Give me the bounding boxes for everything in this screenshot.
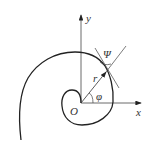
spiral-diagram: y x O r φ Ψ [0,0,155,153]
x-axis-label: x [135,106,141,118]
phi-label: φ [96,90,102,102]
y-axis-label: y [85,12,91,24]
phi-arc [89,93,93,103]
radius-label: r [93,72,98,84]
psi-label: Ψ [103,48,112,60]
origin-label: O [70,105,78,117]
